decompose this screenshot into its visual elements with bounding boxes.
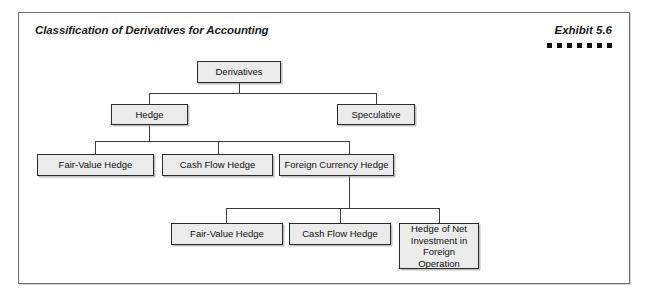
page-title: Classification of Derivatives for Accoun…: [35, 24, 269, 36]
connector-level3-bus: [226, 208, 440, 209]
square-dot-icon: [557, 43, 562, 48]
connector-to-speculative: [376, 93, 377, 104]
node-fair-value-hedge[interactable]: Fair-Value Hedge: [37, 154, 154, 176]
node-hedge-of-net-investment[interactable]: Hedge of Net Investment in Foreign Opera…: [399, 223, 479, 269]
node-fc-fair-value-hedge[interactable]: Fair-Value Hedge: [171, 223, 283, 245]
square-dot-icon: [587, 43, 592, 48]
connector-to-cash-flow-hedge: [218, 141, 219, 154]
square-dot-icon: [607, 43, 612, 48]
node-foreign-currency-hedge[interactable]: Foreign Currency Hedge: [279, 154, 394, 176]
node-fc-cash-flow-hedge[interactable]: Cash Flow Hedge: [289, 223, 391, 245]
connector-to-hedge-of-net-investment: [439, 208, 440, 223]
connector-level1-bus: [149, 93, 377, 94]
square-dot-icon: [567, 43, 572, 48]
exhibit-dot-row: [547, 43, 612, 48]
node-hedge[interactable]: Hedge: [111, 104, 188, 125]
connector-level2-bus: [95, 141, 350, 142]
node-cash-flow-hedge[interactable]: Cash Flow Hedge: [162, 154, 273, 176]
node-speculative[interactable]: Speculative: [337, 104, 415, 125]
connector-to-fc-fair-value-hedge: [226, 208, 227, 223]
connector-to-fair-value-hedge: [95, 141, 96, 154]
connector-derivatives-stem: [239, 83, 240, 93]
exhibit-root: Classification of Derivatives for Accoun…: [0, 0, 653, 297]
square-dot-icon: [597, 43, 602, 48]
connector-to-fc-cash-flow-hedge: [340, 208, 341, 223]
exhibit-panel: Classification of Derivatives for Accoun…: [18, 12, 630, 284]
square-dot-icon: [577, 43, 582, 48]
connector-to-hedge: [149, 93, 150, 104]
connector-to-foreign-currency-hedge: [349, 141, 350, 154]
exhibit-number-label: Exhibit 5.6: [554, 24, 612, 36]
connector-hedge-stem: [149, 125, 150, 141]
node-derivatives[interactable]: Derivatives: [197, 61, 281, 83]
square-dot-icon: [547, 43, 552, 48]
connector-foreign-currency-stem: [349, 176, 350, 208]
